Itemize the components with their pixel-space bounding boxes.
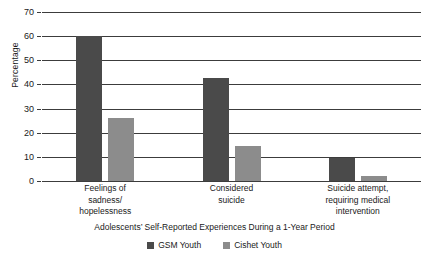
category-label-line: Feelings of xyxy=(42,183,168,195)
y-axis-tick xyxy=(37,36,41,37)
gridline xyxy=(42,181,421,182)
y-axis-tick xyxy=(37,84,41,85)
gridline xyxy=(42,12,421,13)
bar xyxy=(361,176,387,181)
x-axis-title: Adolescents’ Self-Reported Experiences D… xyxy=(0,222,429,232)
y-axis-tick xyxy=(37,60,41,61)
y-axis-tick xyxy=(37,181,41,182)
y-axis-tick xyxy=(37,157,41,158)
y-axis-tick xyxy=(37,109,41,110)
y-axis-tick xyxy=(37,12,41,13)
category-label-line: intervention xyxy=(295,206,421,218)
x-axis-category-label: Consideredsuicide xyxy=(168,183,294,206)
y-axis-title: Percentage xyxy=(10,10,20,120)
y-axis-tick-label: 40 xyxy=(24,79,34,89)
y-axis-tick-label: 10 xyxy=(24,152,34,162)
bar xyxy=(329,158,355,181)
x-axis-category-label: Feelings ofsadness/hopelessness xyxy=(42,183,168,218)
y-axis-tick-label: 70 xyxy=(24,7,34,17)
category-label-line: suicide xyxy=(168,195,294,207)
bar xyxy=(108,118,134,181)
legend-entry[interactable]: Cishet Youth xyxy=(223,240,282,250)
bar xyxy=(235,146,261,181)
legend-swatch-icon xyxy=(147,242,154,249)
y-axis-tick-label: 60 xyxy=(24,31,34,41)
y-axis-tick-label: 30 xyxy=(24,104,34,114)
category-label-line: sadness/ xyxy=(42,195,168,207)
bar-chart: Percentage 010203040506070 Feelings ofsa… xyxy=(0,0,429,258)
legend-swatch-icon xyxy=(223,242,230,249)
y-axis-tick-label: 50 xyxy=(24,55,34,65)
legend-label: Cishet Youth xyxy=(234,240,282,250)
chart-legend: GSM YouthCishet Youth xyxy=(0,240,429,250)
y-axis-tick-label: 0 xyxy=(29,176,34,186)
plot-area: 010203040506070 xyxy=(42,12,421,181)
legend-entry[interactable]: GSM Youth xyxy=(147,240,201,250)
category-label-line: hopelessness xyxy=(42,206,168,218)
bar xyxy=(76,36,102,181)
category-label-line: Suicide attempt, xyxy=(295,183,421,195)
x-axis-category-label: Suicide attempt,requiring medicalinterve… xyxy=(295,183,421,218)
category-label-line: requiring medical xyxy=(295,195,421,207)
y-axis-tick-label: 20 xyxy=(24,128,34,138)
legend-label: GSM Youth xyxy=(158,240,201,250)
category-label-line: Considered xyxy=(168,183,294,195)
y-axis-tick xyxy=(37,133,41,134)
bar xyxy=(203,78,229,181)
